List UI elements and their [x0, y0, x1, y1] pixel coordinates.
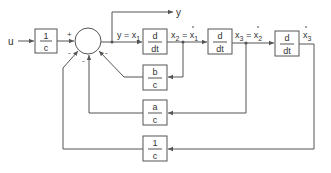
label-y-eq-x1: y = x1: [117, 30, 140, 42]
ac-to-sum-line: [89, 55, 143, 113]
x3dot-feedback-line: [168, 44, 314, 149]
svg-text:d: d: [284, 33, 289, 43]
svg-text:dt: dt: [216, 44, 224, 54]
input-gain-den: c: [44, 43, 49, 53]
sign-minus-1: -: [68, 48, 71, 57]
svg-text:d: d: [152, 31, 157, 41]
svg-text:1: 1: [152, 138, 157, 148]
label-x2-eq-x1dot: x2 = x1: [171, 30, 198, 42]
svg-text:a: a: [152, 102, 157, 112]
svg-text:c: c: [153, 151, 158, 161]
svg-text:c: c: [153, 115, 158, 125]
feedback-block-a-over-c: a c: [143, 100, 167, 125]
svg-text:dt: dt: [283, 46, 291, 56]
block-diagram: u 1 c + - - - y y = x1 d dt x2 = x1 b c: [0, 0, 331, 173]
svg-text:d: d: [217, 31, 222, 41]
input-gain-block: 1 c: [35, 29, 57, 53]
input-label: u: [8, 36, 14, 47]
sign-minus-2: -: [82, 56, 85, 65]
x2-feedback-line: [168, 42, 183, 77]
dot-accent-x3: [305, 26, 307, 28]
feedback-block-1-over-c: 1 c: [143, 136, 167, 161]
svg-text:dt: dt: [151, 44, 159, 54]
input-gain-num: 1: [43, 31, 48, 41]
svg-text:b: b: [152, 67, 157, 77]
derivative-block-3: d dt: [275, 31, 299, 56]
one-over-c-to-sum-line: [63, 51, 143, 149]
svg-text:c: c: [153, 80, 158, 90]
feedback-block-b-over-c: b c: [143, 65, 167, 90]
derivative-block-2: d dt: [208, 29, 232, 54]
sign-minus-3: -: [105, 48, 108, 57]
summing-junction: [75, 28, 101, 54]
x3-feedback-line: [168, 43, 246, 113]
derivative-block-1: d dt: [143, 29, 167, 54]
label-x3dot: x3: [303, 30, 312, 42]
output-label: y: [176, 7, 181, 18]
dot-accent-x2: [257, 26, 259, 28]
label-x3-eq-x2dot: x3 = x2: [235, 30, 262, 42]
sign-plus: +: [67, 30, 72, 39]
dot-accent-x1: [192, 26, 194, 28]
